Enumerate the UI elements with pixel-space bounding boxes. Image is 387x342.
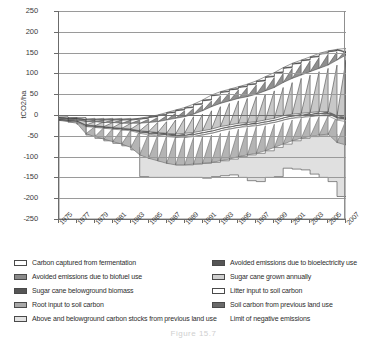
legend-item-label: Sugar cane grown annually <box>230 273 311 280</box>
legend-item: Sugar cane grown annually <box>212 270 387 283</box>
x-tick-mark <box>184 219 185 223</box>
x-tick-mark <box>166 219 167 223</box>
legend-item-label: Above and belowground carbon stocks from… <box>32 315 217 322</box>
gridline--150 <box>59 177 346 178</box>
legend-swatch-icon <box>14 288 27 294</box>
x-tick-mark <box>327 219 328 223</box>
x-tick-mark <box>219 219 220 223</box>
legend-item-label: Carbon captured from fermentation <box>32 259 136 266</box>
legend-item-label: Limit of negative emissions <box>230 315 310 322</box>
y-tick-label: 150 <box>0 48 38 57</box>
legend-swatch-icon <box>14 302 27 308</box>
x-tick-mark <box>130 219 131 223</box>
figure-container: tCO2/ha 250200150100500-50-100-150-200-2… <box>0 0 387 342</box>
gridline-200 <box>59 32 346 33</box>
legend-item: Above and belowground carbon stocks from… <box>14 312 204 325</box>
legend-item-label: Root input to soil carbon <box>32 301 104 308</box>
y-tick-label: -250 <box>0 214 38 223</box>
legend-item-label: Soil carbon from previous land use <box>230 301 333 308</box>
plot-frame-right-edge <box>344 11 345 219</box>
x-tick-mark <box>273 219 274 223</box>
legend-swatch-icon <box>212 288 225 294</box>
legend-item: Carbon captured from fermentation <box>14 256 204 269</box>
legend-swatch-icon <box>212 260 225 266</box>
legend-item-label: Litter input to soil carbon <box>230 287 302 294</box>
y-tick-label: 0 <box>0 110 38 119</box>
y-tick-label: 250 <box>0 6 38 15</box>
y-axis-title: tCO2/ha <box>19 70 28 140</box>
legend-swatch-icon <box>14 260 27 266</box>
gridline-100 <box>59 73 346 74</box>
x-tick-mark <box>309 219 310 223</box>
x-tick-mark <box>148 219 149 223</box>
y-tick-label: 200 <box>0 27 38 36</box>
y-tick-label: -200 <box>0 193 38 202</box>
x-tick-mark <box>345 219 346 223</box>
x-tick-mark <box>291 219 292 223</box>
y-tick-label: -100 <box>0 152 38 161</box>
gridline-0 <box>59 115 346 116</box>
legend: Carbon captured from fermentationAvoided… <box>0 256 387 326</box>
gridline-50 <box>59 94 346 95</box>
y-tick-label: 50 <box>0 89 38 98</box>
y-tick-label: -150 <box>0 172 38 181</box>
legend-item-label: Avoided emissions due to biofuel use <box>32 273 142 280</box>
legend-item: Avoided emissions due to bioelectricity … <box>212 256 387 269</box>
x-tick-mark <box>237 219 238 223</box>
gridline-250 <box>59 11 346 12</box>
legend-item: Root input to soil carbon <box>14 298 204 311</box>
y-tick-label: 100 <box>0 68 38 77</box>
legend-item: Avoided emissions due to biofuel use <box>14 270 204 283</box>
legend-item: Soil carbon from previous land use <box>212 298 387 311</box>
legend-swatch-icon <box>14 316 27 322</box>
legend-item-label: Sugar cane belowground biomass <box>32 287 133 294</box>
gridline--100 <box>59 157 346 158</box>
figure-caption: Figure 15.7 <box>0 329 387 338</box>
y-tick-label: -50 <box>0 131 38 140</box>
legend-item: Sugar cane belowground biomass <box>14 284 204 297</box>
legend-item-label: Avoided emissions due to bioelectricity … <box>230 259 357 266</box>
gridline--50 <box>59 136 346 137</box>
x-tick-mark <box>255 219 256 223</box>
gridline--200 <box>59 198 346 199</box>
gridline-150 <box>59 53 346 54</box>
legend-swatch-icon <box>212 302 225 308</box>
x-tick-mark <box>202 219 203 223</box>
x-tick-mark <box>112 219 113 223</box>
legend-item: Limit of negative emissions <box>212 312 387 325</box>
x-tick-mark <box>76 219 77 223</box>
plot-area <box>58 11 346 220</box>
x-tick-mark <box>58 219 59 223</box>
legend-swatch-icon <box>212 274 225 280</box>
x-tick-label: 2007 <box>345 211 360 226</box>
x-tick-mark <box>94 219 95 223</box>
legend-item: Litter input to soil carbon <box>212 284 387 297</box>
legend-swatch-icon <box>212 316 225 322</box>
legend-swatch-icon <box>14 274 27 280</box>
